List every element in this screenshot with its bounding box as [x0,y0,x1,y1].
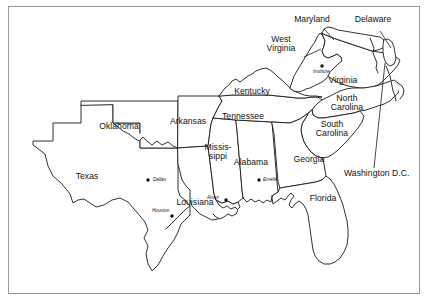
city-dot-emelle[interactable] [257,178,260,181]
state-label-north-carolina: North Carolina [324,94,370,113]
state-label-florida: Florida [303,194,343,203]
state-label-maryland: Maryland [287,15,337,24]
state-label-tennessee: Tennessee [214,112,272,121]
state-label-georgia: Georgia [287,155,331,164]
city-label-alsen: Alsen [207,195,219,200]
city-dot-alsen[interactable] [224,198,227,201]
state-label-texas: Texas [66,172,108,181]
city-label-emelle: Emelle [263,177,277,182]
city-label-institute: Institute [313,69,330,74]
state-label-delaware: Delaware [348,15,398,24]
state-label-alabama: Alabama [227,158,275,167]
state-label-south-carolina: South Carolina [309,120,355,139]
state-label-arkansas: Arkansas [162,117,214,126]
state-label-washington-dc: Washington D.C. [344,169,428,178]
state-shape-florida[interactable] [272,176,348,264]
map-figure: Texas Oklahoma Arkansas Louisiana Missis… [0,0,429,306]
state-label-west-virginia: West Virginia [260,35,302,54]
city-label-dallas: Dallas [153,177,166,182]
city-dot-institute[interactable] [320,64,323,67]
state-label-kentucky: Kentucky [227,87,277,96]
state-label-oklahoma: Oklahoma [92,122,146,131]
city-dot-dallas[interactable] [146,178,149,181]
state-label-virginia: Virginia [321,76,365,85]
city-label-houston: Houston [152,208,169,213]
city-dot-houston[interactable] [170,214,173,217]
